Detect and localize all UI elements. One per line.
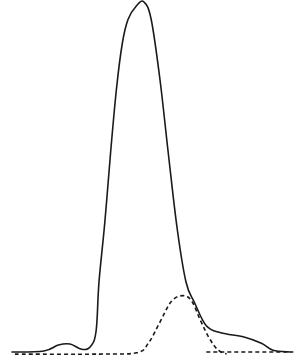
solid-curve-line xyxy=(12,1,290,352)
chart xyxy=(0,0,307,363)
series-layer xyxy=(12,1,293,354)
